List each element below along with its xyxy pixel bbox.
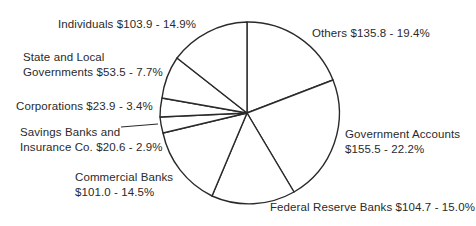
label-commercial-banks: Commercial Banks $101.0 - 14.5% — [75, 170, 173, 200]
label-others: Others $135.8 - 19.4% — [312, 26, 430, 41]
label-government-accounts: Government Accounts $155.5 - 22.2% — [345, 127, 460, 157]
label-state-local-governments: State and Local Governments $53.5 - 7.7% — [23, 50, 163, 80]
label-savings-banks: Savings Banks and Insurance Co. $20.6 - … — [20, 125, 163, 155]
label-federal-reserve-banks: Federal Reserve Banks $104.7 - 15.0% — [270, 200, 475, 215]
label-corporations: Corporations $23.9 - 3.4% — [16, 99, 153, 114]
label-individuals: Individuals $103.9 - 14.9% — [58, 17, 196, 32]
